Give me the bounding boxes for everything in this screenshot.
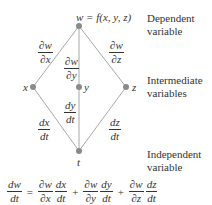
- edge-label-y-t: dydt: [64, 100, 76, 125]
- intermediate-variables-label: Intermediate variables: [147, 74, 203, 100]
- top-node-label: w = f(x, y, z): [76, 11, 131, 23]
- node-x: [30, 84, 36, 90]
- term3-derivative: dzdt: [146, 179, 158, 204]
- z-node-label: z: [132, 81, 136, 93]
- node-y: [76, 84, 82, 90]
- y-node-label: y: [84, 81, 89, 93]
- term3-partial: ∂w∂z: [129, 179, 144, 204]
- t-node-label: t: [77, 156, 80, 168]
- term1-partial: ∂w∂x: [38, 179, 53, 204]
- edge-label-w-x: ∂w∂x: [38, 40, 53, 65]
- chain-rule-equation: dwdt = ∂w∂x dxdt + ∂w∂y dydt + ∂w∂z dzdt: [6, 179, 158, 204]
- edge-label-w-z: ∂w∂z: [109, 40, 124, 65]
- node-t: [76, 148, 82, 154]
- x-node-label: x: [23, 81, 28, 93]
- edge-label-x-t: dxdt: [38, 117, 50, 142]
- edge-label-w-y: ∂w∂y: [64, 56, 79, 81]
- term1-derivative: dxdt: [55, 179, 67, 204]
- dependent-variable-label: Dependent variable: [147, 12, 195, 38]
- node-w: [76, 23, 82, 29]
- lhs-fraction: dwdt: [7, 179, 22, 204]
- node-z: [123, 84, 129, 90]
- edge-label-z-t: dzdt: [109, 117, 121, 142]
- term2-partial: ∂w∂y: [83, 179, 98, 204]
- independent-variable-label: Independent variable: [147, 148, 201, 174]
- term2-derivative: dydt: [100, 179, 112, 204]
